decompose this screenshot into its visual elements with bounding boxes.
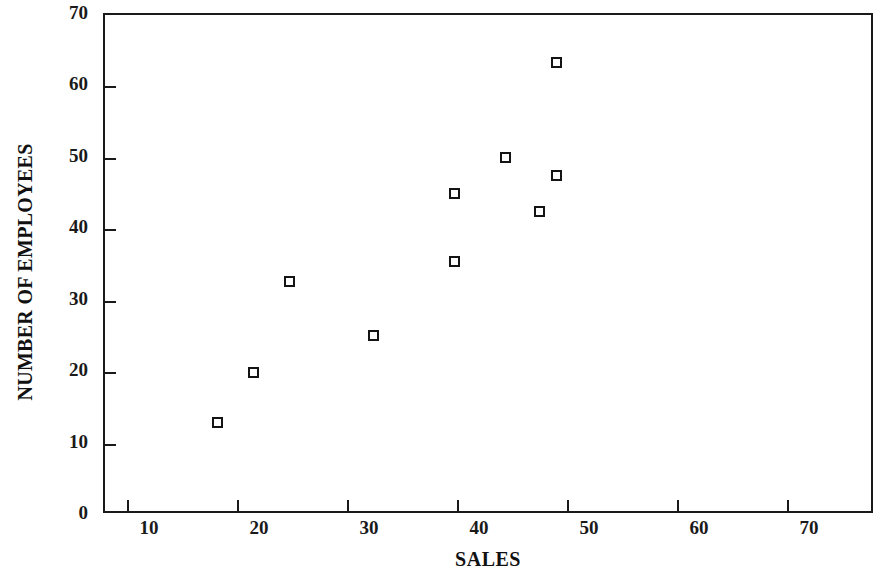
y-axis-title: NUMBER OF EMPLOYEES bbox=[10, 22, 40, 522]
data-point bbox=[284, 276, 295, 287]
data-point bbox=[500, 152, 511, 163]
y-axis-tick-label: 30 bbox=[48, 289, 88, 308]
y-axis-tick-label: 10 bbox=[48, 432, 88, 451]
y-axis-tick bbox=[105, 444, 116, 446]
x-axis-tick-label: 30 bbox=[339, 518, 399, 537]
x-axis-tick bbox=[567, 500, 569, 511]
x-axis-tick-label: 20 bbox=[229, 518, 289, 537]
y-axis-tick-label: 60 bbox=[48, 74, 88, 93]
y-axis-tick-label: 0 bbox=[48, 503, 88, 522]
x-axis-tick-label: 10 bbox=[119, 518, 179, 537]
data-point bbox=[212, 417, 223, 428]
x-axis-title: SALES bbox=[103, 548, 873, 571]
data-point bbox=[449, 256, 460, 267]
plot-frame bbox=[103, 13, 873, 513]
x-axis-tick-label: 40 bbox=[449, 518, 509, 537]
x-axis-tick bbox=[787, 500, 789, 511]
data-point bbox=[551, 170, 562, 181]
x-axis-tick bbox=[457, 500, 459, 511]
x-axis-tick-label: 70 bbox=[779, 518, 839, 537]
x-axis-tick bbox=[677, 500, 679, 511]
y-axis-tick bbox=[105, 229, 116, 231]
y-axis-tick bbox=[105, 86, 116, 88]
y-axis-title-container: NUMBER OF EMPLOYEES bbox=[10, 22, 40, 522]
y-axis-tick bbox=[105, 372, 116, 374]
data-point bbox=[534, 206, 545, 217]
x-axis-tick-label: 50 bbox=[559, 518, 619, 537]
y-axis-tick-label: 40 bbox=[48, 217, 88, 236]
data-point bbox=[449, 188, 460, 199]
scatter-plot-figure: NUMBER OF EMPLOYEES 010203040506070 1020… bbox=[0, 0, 889, 580]
plot-inner bbox=[105, 15, 871, 511]
y-axis-tick-label: 20 bbox=[48, 360, 88, 379]
x-axis-tick bbox=[347, 500, 349, 511]
y-axis-tick-label: 70 bbox=[48, 3, 88, 22]
y-axis-tick bbox=[105, 158, 116, 160]
data-point bbox=[368, 330, 379, 341]
data-point bbox=[551, 57, 562, 68]
x-axis-tick bbox=[127, 500, 129, 511]
x-axis-tick-label: 60 bbox=[669, 518, 729, 537]
y-axis-tick bbox=[105, 301, 116, 303]
y-axis-tick-label: 50 bbox=[48, 146, 88, 165]
data-point bbox=[248, 367, 259, 378]
x-axis-tick bbox=[237, 500, 239, 511]
